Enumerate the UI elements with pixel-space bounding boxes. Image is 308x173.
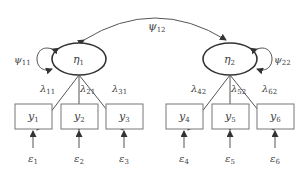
- sem-path-diagram: ψ12 η1 ψ11 η2 ψ22 λ11 λ21 λ31 λ42 λ52 λ6…: [0, 0, 308, 173]
- loading-label-lambda31: λ31: [111, 83, 127, 96]
- error-label-eps3: ε3: [119, 153, 129, 166]
- error-label-eps5: ε5: [225, 153, 235, 166]
- variance-loop-psi22: [257, 48, 272, 70]
- loading-label-lambda11: λ11: [39, 83, 55, 96]
- covariance-label-psi12: ψ12: [148, 20, 166, 34]
- error-label-eps2: ε2: [74, 153, 84, 166]
- variance-label-psi22: ψ22: [274, 54, 291, 67]
- error-label-eps1: ε1: [28, 153, 38, 166]
- variance-label-psi11: ψ11: [14, 54, 31, 67]
- loading-label-lambda62: λ62: [261, 83, 277, 96]
- loading-label-lambda42: λ42: [190, 83, 206, 96]
- error-label-eps4: ε4: [179, 153, 189, 166]
- variance-loop-psi11: [37, 48, 52, 70]
- error-label-eps6: ε6: [270, 153, 280, 166]
